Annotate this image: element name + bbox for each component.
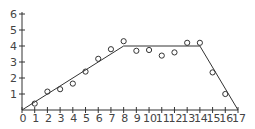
- x-tick-label: 3: [58, 112, 65, 125]
- plot-area: [22, 39, 238, 110]
- data-point: [159, 53, 164, 58]
- data-point: [197, 40, 202, 45]
- x-tick-label: 1: [32, 112, 39, 125]
- trapezoid-scatter-chart: 123456 01234567891011121314151617: [0, 0, 255, 129]
- data-point: [108, 47, 113, 52]
- x-tick-label: 8: [121, 112, 128, 125]
- y-tick-label: 2: [10, 72, 17, 85]
- data-point: [134, 48, 139, 53]
- x-tick-label: 17: [232, 112, 246, 125]
- y-tick-label: 1: [10, 88, 17, 101]
- x-tick-label: 9: [134, 112, 141, 125]
- y-tick-label: 6: [10, 8, 17, 21]
- fit-line: [22, 46, 238, 110]
- x-tick-label: 0: [20, 112, 27, 125]
- data-point: [146, 47, 151, 52]
- y-axis: 123456: [10, 8, 25, 110]
- x-tick-label: 5: [83, 112, 90, 125]
- x-tick-label: 4: [70, 112, 77, 125]
- data-point: [172, 50, 177, 55]
- y-tick-label: 3: [10, 56, 17, 69]
- data-point: [121, 39, 126, 44]
- x-tick-label: 7: [108, 112, 115, 125]
- x-tick-label: 6: [96, 112, 103, 125]
- y-tick-label: 4: [10, 40, 17, 53]
- x-axis: 01234567891011121314151617: [20, 107, 247, 125]
- y-tick-label: 5: [10, 24, 17, 37]
- data-point: [185, 40, 190, 45]
- data-point: [70, 81, 75, 86]
- x-tick-label: 2: [45, 112, 52, 125]
